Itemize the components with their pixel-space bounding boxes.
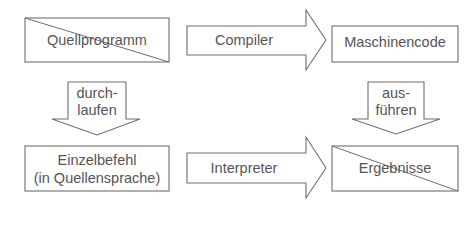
arrow-run-through: durch- laufen (52, 82, 140, 135)
node-machine-code: Maschinencode (332, 26, 458, 62)
run-through-label-line2: laufen (77, 102, 117, 118)
execute-label-line1: aus- (382, 85, 410, 101)
node-single-instruction: Einzelbefehl (in Quellensprache) (25, 146, 169, 191)
source-program-label: Quellprogramm (47, 32, 147, 48)
arrow-interpreter: Interpreter (187, 137, 326, 198)
single-instruction-label-line1: Einzelbefehl (58, 152, 137, 168)
single-instruction-label-line2: (in Quellensprache) (34, 170, 161, 186)
node-source-program: Quellprogramm (25, 18, 169, 62)
run-through-label-line1: durch- (76, 85, 117, 101)
arrow-compiler: Compiler (187, 10, 326, 70)
node-results: Ergebnisse (332, 146, 458, 191)
machine-code-label: Maschinencode (344, 34, 446, 50)
arrow-execute: aus- führen (352, 82, 440, 134)
compiler-interpreter-diagram: Quellprogramm Compiler Maschinencode dur… (0, 0, 476, 226)
compiler-label: Compiler (215, 32, 273, 48)
interpreter-label: Interpreter (211, 160, 278, 176)
execute-label-line2: führen (375, 102, 416, 118)
results-label: Ergebnisse (359, 160, 432, 176)
